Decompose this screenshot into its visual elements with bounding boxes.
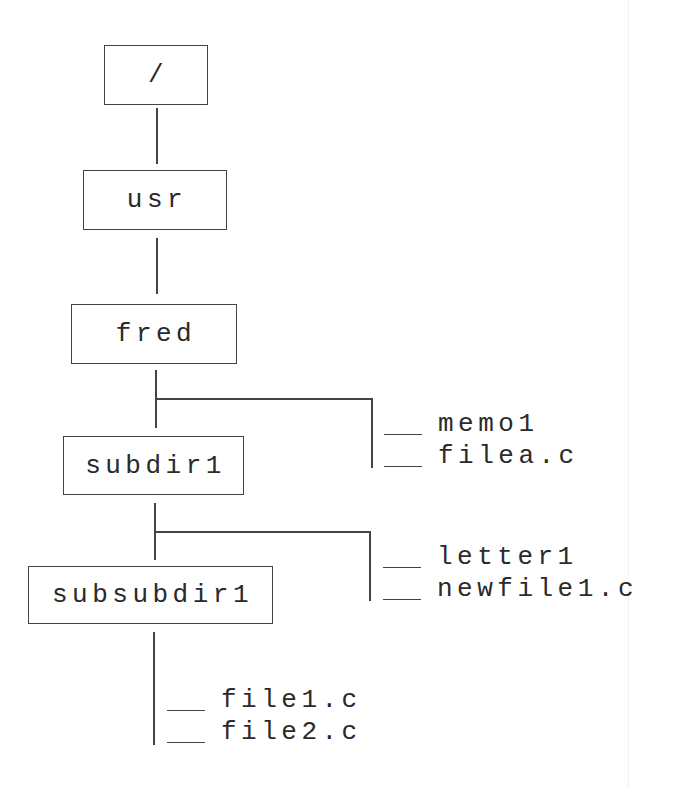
file-label: file1.c bbox=[221, 684, 362, 716]
dir-label-subdir1: subdir1 bbox=[85, 451, 226, 481]
file-label: memo1 bbox=[438, 408, 539, 440]
dir-label-subsubdir1: subsubdir1 bbox=[52, 580, 253, 610]
file-item-file1: file1.c bbox=[167, 684, 362, 716]
dir-label-usr: usr bbox=[127, 185, 187, 215]
page-edge-line bbox=[628, 0, 629, 789]
file-item-letter1: letter1 bbox=[383, 541, 578, 573]
file-item-memo1: memo1 bbox=[384, 408, 539, 440]
file-dash bbox=[384, 434, 422, 436]
dir-node-root: / bbox=[104, 45, 208, 105]
file-dash bbox=[167, 742, 205, 744]
file-item-newfile1: newfile1.c bbox=[383, 573, 638, 605]
branch-subsubdir1-files-vertical bbox=[153, 632, 155, 745]
connector-root-usr bbox=[156, 108, 158, 164]
branch-fred-files-vertical bbox=[371, 398, 373, 468]
dir-node-subdir1: subdir1 bbox=[63, 436, 244, 495]
file-dash bbox=[383, 567, 421, 569]
file-dash bbox=[383, 599, 421, 601]
dir-node-subsubdir1: subsubdir1 bbox=[28, 566, 273, 624]
branch-subdir1-files bbox=[154, 531, 370, 533]
file-label: newfile1.c bbox=[437, 573, 638, 605]
dir-label-root: / bbox=[148, 60, 168, 90]
connector-usr-fred bbox=[156, 238, 158, 294]
file-label: letter1 bbox=[437, 541, 578, 573]
file-dash bbox=[384, 466, 422, 468]
file-item-filea: filea.c bbox=[384, 440, 579, 472]
branch-subdir1-files-vertical bbox=[369, 531, 371, 601]
dir-node-usr: usr bbox=[83, 170, 227, 230]
file-label: filea.c bbox=[438, 440, 579, 472]
file-dash bbox=[167, 710, 205, 712]
dir-label-fred: fred bbox=[116, 319, 196, 349]
dir-node-fred: fred bbox=[71, 304, 237, 364]
file-item-file2: file2.c bbox=[167, 716, 362, 748]
file-label: file2.c bbox=[221, 716, 362, 748]
branch-fred-files bbox=[155, 398, 372, 400]
